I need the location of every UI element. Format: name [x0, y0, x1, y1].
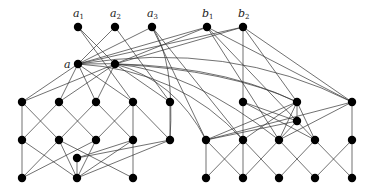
label-a: a	[64, 58, 71, 71]
label-b2: b2	[238, 7, 250, 21]
node-Rs	[293, 117, 301, 125]
node-R3c	[275, 174, 283, 182]
node-R2c	[275, 136, 283, 144]
curve-edge-ap-R2a	[115, 64, 206, 140]
label-a2: a2	[110, 7, 121, 21]
label-a3: a3	[147, 7, 158, 21]
node-b2	[239, 23, 247, 31]
node-L1d	[129, 98, 137, 106]
edge-b2-ap	[115, 27, 243, 64]
node-L1b	[55, 98, 63, 106]
node-R2a	[202, 136, 210, 144]
node-a1	[74, 23, 82, 31]
node-a	[74, 60, 82, 68]
edge-L1d-L2e	[133, 102, 170, 140]
node-R3a	[202, 174, 210, 182]
label-b1: b1	[202, 7, 214, 21]
node-L3c	[129, 174, 137, 182]
edge-b1-R1c	[207, 27, 352, 102]
node-R1b	[293, 98, 301, 106]
edge-L2a-L3b	[22, 140, 77, 178]
node-Ls	[73, 154, 81, 162]
node-L2c	[92, 136, 100, 144]
node-R2b	[239, 136, 247, 144]
node-ap	[111, 60, 119, 68]
edge-ap-L1e	[115, 64, 170, 102]
edges-layer	[22, 27, 352, 178]
node-L2a	[18, 136, 26, 144]
lattice-diagram: a1a2a3b1b2a	[0, 0, 373, 188]
node-L2b	[55, 136, 63, 144]
diagram-canvas: a1a2a3b1b2a	[0, 0, 373, 188]
node-b1	[203, 23, 211, 31]
label-a1: a1	[73, 7, 84, 21]
node-R1c	[348, 98, 356, 106]
edge-b2-R1c	[243, 27, 352, 102]
node-a2	[111, 23, 119, 31]
node-R2d	[311, 136, 319, 144]
edge-b1-a	[78, 27, 207, 64]
node-a3	[148, 23, 156, 31]
node-R3d	[311, 174, 319, 182]
edge-L2b-L3a	[22, 140, 59, 178]
node-L3b	[73, 174, 81, 182]
node-L2e	[166, 136, 174, 144]
node-L2d	[129, 136, 137, 144]
edge-R1c-R2c	[279, 102, 352, 140]
edge-ap-L1c	[96, 64, 115, 102]
edge-L2e-L3b	[77, 140, 170, 178]
node-L3a	[18, 174, 26, 182]
node-L1e	[166, 98, 174, 106]
nodes-layer	[18, 23, 356, 182]
node-R2e	[348, 136, 356, 144]
node-R1a	[239, 98, 247, 106]
node-R3e	[348, 174, 356, 182]
edge-a3-a	[78, 27, 152, 64]
node-L1c	[92, 98, 100, 106]
edge-L2b-L3c	[59, 140, 133, 178]
node-R3b	[239, 174, 247, 182]
node-L1a	[18, 98, 26, 106]
